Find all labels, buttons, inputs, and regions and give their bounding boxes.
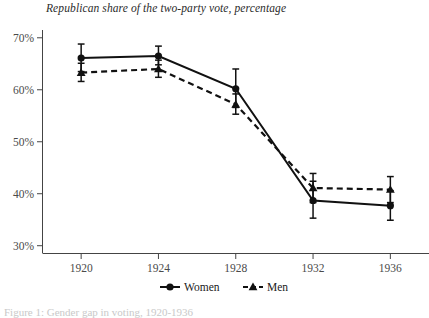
legend-item-men[interactable]: Men xyxy=(243,281,288,293)
data-point-marker xyxy=(155,52,162,59)
figure-caption: Figure 1: Gender gap in voting, 1920-193… xyxy=(4,306,424,318)
legend-label: Women xyxy=(184,281,220,293)
y-tick-label: 40% xyxy=(13,188,35,200)
chart-legend: WomenMen xyxy=(160,281,288,293)
x-tick-label: 1928 xyxy=(224,262,247,274)
y-tick-label: 70% xyxy=(13,32,35,44)
x-axis-ticks: 19201924192819321936 xyxy=(70,254,402,275)
y-tick-label: 50% xyxy=(13,136,35,148)
data-point-marker xyxy=(232,85,239,92)
data-series-layer xyxy=(77,44,395,220)
legend-label: Men xyxy=(267,281,288,293)
legend-item-women[interactable]: Women xyxy=(160,281,220,293)
y-axis-ticks: 30%40%50%60%70% xyxy=(13,32,43,252)
data-point-marker xyxy=(166,283,173,290)
x-tick-label: 1924 xyxy=(147,262,170,274)
x-tick-label: 1936 xyxy=(379,262,402,274)
x-tick-label: 1920 xyxy=(70,262,93,274)
y-tick-label: 60% xyxy=(13,84,35,96)
y-tick-label: 30% xyxy=(13,240,35,252)
x-tick-label: 1932 xyxy=(302,262,325,274)
data-point-marker xyxy=(78,54,85,61)
data-point-marker xyxy=(231,100,240,108)
data-point-marker xyxy=(249,283,258,291)
axis-lines xyxy=(43,30,429,254)
